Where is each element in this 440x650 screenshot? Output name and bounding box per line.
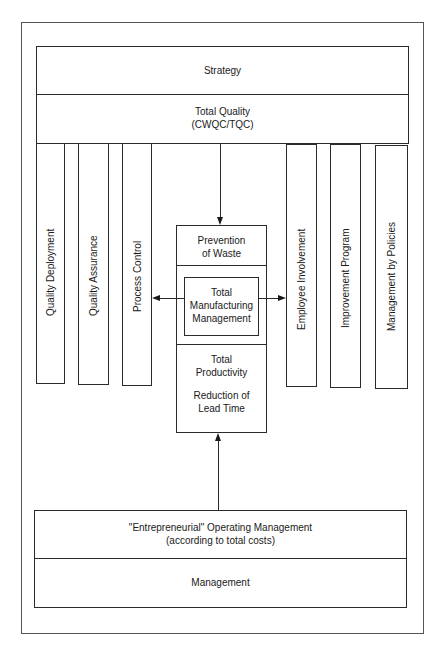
center-divider-bottom: [177, 344, 266, 345]
pillar-label: Management by Policies: [386, 222, 398, 331]
arrow-down-icon: [217, 217, 223, 225]
pillar-quality-deployment: Quality Deployment: [36, 143, 65, 384]
pillar-management-by-policies: Management by Policies: [375, 145, 408, 389]
arrow-line-to-employee-involvement: [258, 298, 280, 299]
management-label: Management: [35, 576, 406, 589]
total-quality-label: Total Quality (CWQC/TQC): [37, 105, 408, 131]
pillar-employee-involvement: Employee Involvement: [286, 144, 317, 387]
total-manufacturing-management-label: Total Manufacturing Management: [185, 286, 258, 325]
center-stack: Prevention of Waste Total Manufacturing …: [176, 225, 267, 433]
arrow-left-icon: [152, 295, 160, 301]
pillar-label: Quality Assurance: [88, 235, 100, 316]
pillar-improvement-program: Improvement Program: [330, 144, 361, 388]
management-box: Management: [34, 558, 407, 608]
total-productivity-label: Total Productivity: [177, 353, 266, 379]
reduction-of-lead-time-label: Reduction of Lead Time: [177, 389, 266, 415]
total-manufacturing-management-box: Total Manufacturing Management: [184, 277, 259, 336]
arrow-line-to-process-control: [158, 298, 184, 299]
pillar-label: Process Control: [132, 241, 144, 312]
arrow-line-quality-to-prevention: [220, 144, 221, 218]
strategy-label: Strategy: [37, 64, 408, 77]
operating-management-box: "Entrepreneurial" Operating Management (…: [34, 510, 407, 559]
prevention-of-waste-label: Prevention of Waste: [177, 234, 266, 260]
pillar-label: Employee Involvement: [296, 229, 308, 330]
pillar-label: Improvement Program: [340, 229, 352, 328]
arrow-line-operating-to-center: [218, 440, 219, 511]
pillar-quality-assurance: Quality Assurance: [78, 143, 109, 385]
total-quality-box: Total Quality (CWQC/TQC): [36, 94, 409, 144]
operating-management-label: "Entrepreneurial" Operating Management (…: [35, 521, 406, 547]
arrow-right-icon: [278, 295, 286, 301]
center-divider-top: [177, 265, 266, 266]
arrow-up-icon: [215, 433, 221, 441]
strategy-box: Strategy: [36, 46, 409, 95]
pillar-process-control: Process Control: [122, 143, 152, 386]
pillar-label: Quality Deployment: [45, 229, 57, 316]
